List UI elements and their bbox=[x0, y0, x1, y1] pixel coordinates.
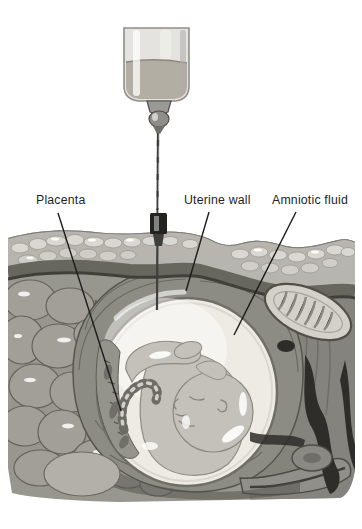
needle-taper bbox=[153, 126, 165, 134]
barrel-shade bbox=[180, 30, 186, 94]
label-placenta: Placenta bbox=[36, 193, 85, 207]
luer-knob bbox=[149, 111, 169, 127]
barrel-highlight-2 bbox=[160, 30, 171, 59]
rectum-lumen bbox=[303, 453, 321, 463]
abdomen-cross-section bbox=[0, 220, 362, 520]
syringe bbox=[124, 28, 189, 134]
figure-amniocentesis: Placenta Uterine wall Amniotic fluid bbox=[0, 0, 362, 529]
bladder bbox=[44, 452, 120, 496]
needle-hub-highlight bbox=[154, 216, 159, 231]
illustration-canvas: Placenta Uterine wall Amniotic fluid bbox=[0, 0, 362, 529]
luer-glint bbox=[152, 113, 158, 121]
barrel-highlight bbox=[133, 30, 140, 96]
labels: Placenta Uterine wall Amniotic fluid bbox=[36, 193, 348, 207]
label-uterine-wall: Uterine wall bbox=[184, 193, 251, 207]
label-amniotic-fluid: Amniotic fluid bbox=[272, 193, 348, 207]
